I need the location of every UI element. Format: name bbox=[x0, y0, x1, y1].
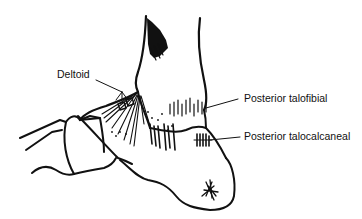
deltoid-leader-fan-1 bbox=[116, 92, 122, 100]
tibia-outline-right bbox=[199, 18, 206, 110]
navicular-outline bbox=[66, 116, 104, 152]
metatarsal-upper bbox=[20, 120, 66, 138]
label-posterior-talofibial: Posterior talofibial bbox=[244, 92, 327, 104]
sole-outline bbox=[120, 158, 235, 210]
posterior-talus bbox=[204, 110, 206, 128]
posterior-talocalcaneal-fibers bbox=[194, 134, 212, 146]
toe-base bbox=[32, 167, 74, 175]
label-posterior-talocalcaneal: Posterior talocalcaneal bbox=[244, 130, 350, 142]
tibia-outline-left bbox=[136, 16, 146, 92]
deltoid-leader bbox=[96, 80, 122, 92]
posterior-tibial-tendon-striations bbox=[150, 124, 175, 150]
ankle-ligament-diagram bbox=[0, 0, 362, 219]
posterior-talofibial-fibers bbox=[170, 98, 206, 116]
label-deltoid: Deltoid bbox=[57, 68, 90, 80]
heel-hatching bbox=[202, 180, 218, 200]
posterior-talofibial-leader bbox=[206, 99, 238, 108]
